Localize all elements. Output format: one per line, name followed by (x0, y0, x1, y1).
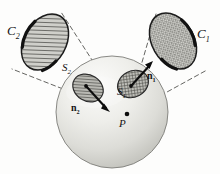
label-n1: n1 (147, 71, 156, 83)
label-C1: C1 (197, 27, 210, 44)
geometry-figure: C2 C1 S2 S1 n2 n1 P (0, 0, 220, 174)
label-S1: S1 (117, 86, 126, 100)
label-S2: S2 (62, 62, 71, 76)
label-n2: n2 (71, 103, 80, 115)
label-P: P (119, 118, 126, 129)
label-C2: C2 (7, 24, 20, 41)
figure-canvas (0, 0, 220, 174)
point-P-marker (125, 112, 130, 117)
